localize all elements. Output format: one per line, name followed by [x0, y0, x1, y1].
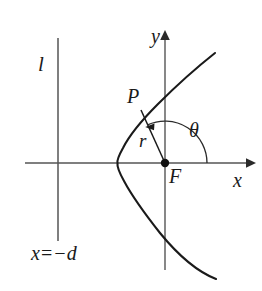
- radius-r-label: r: [139, 131, 146, 150]
- arrow-right-icon: [246, 158, 256, 168]
- directrix-equation-lhs: x: [31, 242, 40, 264]
- figure-canvas: l y x P F r θ x=−d: [0, 0, 262, 291]
- x-axis: [25, 158, 256, 168]
- focus-f-label: F: [169, 166, 181, 186]
- point-p-label: P: [127, 86, 139, 106]
- directrix-equation-operator: =: [40, 242, 53, 264]
- y-axis-label: y: [151, 26, 160, 46]
- directrix-equation-label: x=−d: [31, 243, 77, 263]
- filled-dot-icon: [161, 159, 169, 167]
- angle-theta-label: θ: [189, 120, 199, 140]
- arrow-up-icon: [160, 30, 170, 40]
- directrix-equation-rhs: −d: [53, 242, 77, 264]
- x-axis-label: x: [233, 170, 242, 190]
- directrix-label: l: [38, 54, 44, 75]
